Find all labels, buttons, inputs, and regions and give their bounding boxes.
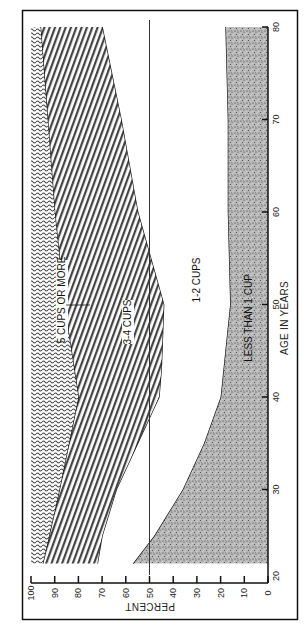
x-axis-title: AGE IN YEARS xyxy=(279,281,290,355)
percent-tick-label: 40 xyxy=(168,588,178,598)
percent-tick-label: 100 xyxy=(26,585,36,600)
percent-tick-label: 50 xyxy=(145,588,155,598)
label-5-cups-or-more: 5 CUPS OR MORE xyxy=(56,256,67,343)
y-axis-title: PERCENT xyxy=(125,601,175,612)
percent-tick-label: 30 xyxy=(192,588,202,598)
label-less-than-1-cup: LESS THAN 1 CUP xyxy=(243,274,254,362)
age-tick-label: 60 xyxy=(271,207,281,217)
coffee-consumption-chart: 010203040506070809010020304050607080 LES… xyxy=(0,0,308,629)
percent-tick-label: 80 xyxy=(73,588,83,598)
percent-tick-label: 10 xyxy=(239,588,249,598)
percent-tick-label: 90 xyxy=(50,588,60,598)
age-tick-label: 20 xyxy=(271,571,281,581)
percent-tick-label: 0 xyxy=(263,590,273,595)
age-tick-label: 30 xyxy=(271,484,281,494)
age-tick-label: 70 xyxy=(271,114,281,124)
label-1-2-cups: 1-2 CUPS xyxy=(191,257,202,302)
percent-tick-label: 70 xyxy=(97,588,107,598)
age-tick-label: 40 xyxy=(271,392,281,402)
label-3-4-cups: 3-4 CUPS xyxy=(122,299,133,344)
percent-tick-label: 20 xyxy=(216,588,226,598)
percent-tick-label: 60 xyxy=(121,588,131,598)
age-tick-label: 80 xyxy=(271,22,281,32)
